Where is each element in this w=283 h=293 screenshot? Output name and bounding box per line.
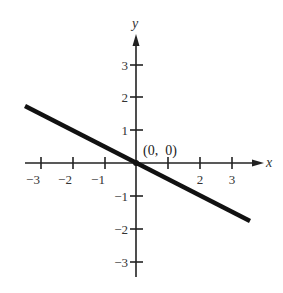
y-tick-label: −1 [114, 189, 128, 204]
x-axis-arrow-icon [252, 160, 264, 167]
y-tick-label: −3 [114, 255, 128, 270]
y-tick-label: −2 [114, 222, 128, 237]
y-tick-label: 2 [122, 90, 129, 105]
x-axis-label: x [265, 155, 273, 170]
graph-canvas: x −3 −2 −1 2 3 y 3 2 1 −1 −2 −3 ( [0, 0, 283, 293]
x-tick-label: −3 [26, 172, 40, 187]
origin-label: (0, 0) [143, 143, 177, 159]
y-tick-label: 1 [122, 123, 129, 138]
origin-point [133, 160, 139, 166]
y-tick-label: 3 [122, 58, 129, 73]
y-axis: y 3 2 1 −1 −2 −3 [114, 16, 143, 277]
x-tick-label: 3 [229, 172, 236, 187]
y-axis-label: y [130, 16, 139, 31]
x-tick-label: 2 [197, 172, 204, 187]
x-tick-label: −1 [91, 172, 105, 187]
x-tick-label: −2 [58, 172, 72, 187]
y-axis-arrow-icon [133, 34, 140, 46]
